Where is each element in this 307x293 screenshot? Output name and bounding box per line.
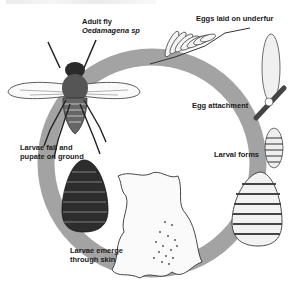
pupa-illustration bbox=[62, 160, 108, 232]
label-larvae-emerge: Larvae emerge through skin bbox=[70, 246, 123, 264]
label-larvae-emerge-line2: through skin bbox=[70, 255, 123, 264]
label-adult-fly-line1: Adult fly bbox=[82, 17, 140, 26]
label-larvae-fall-line1: Larvae fall and bbox=[20, 143, 84, 152]
label-eggs-laid: Eggs laid on underfur bbox=[196, 14, 274, 23]
small-larva-illustration bbox=[265, 128, 283, 168]
label-adult-fly: Adult fly Oedamagena sp bbox=[82, 17, 140, 35]
label-egg-attachment: Egg attachment bbox=[192, 101, 248, 110]
egg-attachment-illustration bbox=[256, 34, 284, 118]
label-larvae-emerge-line1: Larvae emerge bbox=[70, 246, 123, 255]
label-larvae-fall: Larvae fall and pupate on ground bbox=[20, 143, 84, 161]
large-larva-illustration bbox=[232, 172, 282, 246]
animal-hide-illustration bbox=[112, 172, 202, 278]
label-larvae-fall-line2: pupate on ground bbox=[20, 152, 84, 161]
label-larval-forms: Larval forms bbox=[214, 150, 259, 159]
life-cycle-diagram: Adult fly Oedamagena sp Eggs laid on und… bbox=[0, 0, 307, 293]
label-species-name: Oedamagena sp bbox=[82, 26, 140, 35]
